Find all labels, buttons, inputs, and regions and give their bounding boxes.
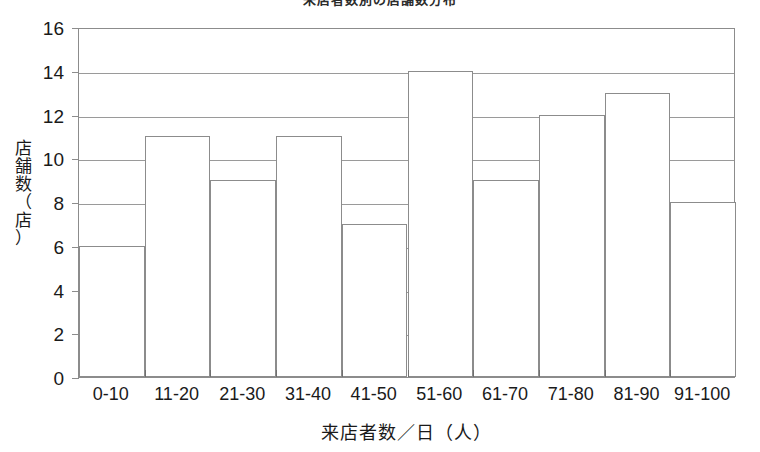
x-axis-tick-mark	[408, 370, 409, 377]
bar	[605, 93, 671, 377]
bar	[539, 115, 605, 378]
y-axis-tick-label: 0	[53, 369, 64, 388]
x-axis-tick-label: 81-90	[613, 384, 659, 406]
y-axis-tick-label: 12	[43, 106, 64, 125]
bar	[145, 136, 211, 377]
x-axis-tick-label: 31-40	[285, 384, 331, 406]
x-axis-tick-labels: 0-1011-2021-3031-4041-5051-6061-7071-808…	[78, 384, 735, 410]
x-axis-tick-label: 61-70	[482, 384, 528, 406]
plot-area	[78, 28, 735, 378]
bar	[210, 180, 276, 377]
x-axis-tick-mark	[342, 370, 343, 377]
y-axis-tick-label: 2	[53, 325, 64, 344]
bar	[276, 136, 342, 377]
y-axis-tick-label: 14	[43, 62, 64, 81]
histogram-figure: 来店者数別の店舗数分布 店 舗 数 （ 店 ） 0246810121416 0-…	[0, 0, 760, 452]
x-axis-tick-label: 0-10	[93, 384, 129, 406]
y-axis-tick-label: 8	[53, 194, 64, 213]
bar	[408, 71, 474, 377]
y-axis-tick-label: 4	[53, 281, 64, 300]
bar	[79, 246, 145, 377]
x-axis-tick-mark	[670, 370, 671, 377]
bar	[670, 202, 736, 377]
y-axis-tick-label: 16	[43, 19, 64, 38]
bar	[342, 224, 408, 377]
x-axis-tick-mark	[539, 370, 540, 377]
x-axis-tick-label: 11-20	[154, 384, 199, 406]
bar	[473, 180, 539, 377]
x-axis-tick-label: 51-60	[416, 384, 462, 406]
x-axis-tick-mark	[210, 370, 211, 377]
bar-series	[79, 29, 734, 377]
y-axis-tick-labels: 0246810121416	[0, 28, 72, 378]
x-axis-tick-mark	[473, 370, 474, 377]
x-axis-tick-mark	[605, 370, 606, 377]
x-axis-tick-mark	[145, 370, 146, 377]
x-axis-tick-label: 21-30	[219, 384, 265, 406]
x-axis-tick-label: 41-50	[351, 384, 397, 406]
x-axis-tick-label: 91-100	[674, 384, 730, 406]
x-axis-tick-label: 71-80	[548, 384, 594, 406]
x-axis-tick-mark	[276, 370, 277, 377]
x-axis-title: 来店者数／日（人）	[78, 418, 735, 444]
y-axis-tick-mark	[72, 378, 79, 379]
y-axis-tick-label: 6	[53, 237, 64, 256]
chart-title: 来店者数別の店舗数分布	[0, 0, 760, 8]
y-axis-tick-label: 10	[43, 150, 64, 169]
